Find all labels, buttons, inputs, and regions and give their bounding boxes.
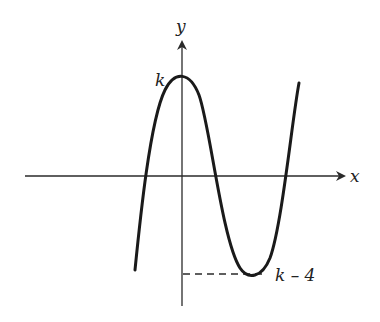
minimum-label: k – 4 bbox=[275, 265, 315, 285]
function-graph-figure: y x k k – 4 bbox=[0, 0, 380, 322]
maximum-label: k bbox=[155, 70, 165, 90]
x-axis bbox=[25, 171, 346, 181]
x-axis-label: x bbox=[350, 166, 360, 186]
y-axis-label: y bbox=[175, 16, 186, 36]
y-axis bbox=[177, 40, 187, 306]
graph-svg: y x k k – 4 bbox=[0, 0, 380, 322]
